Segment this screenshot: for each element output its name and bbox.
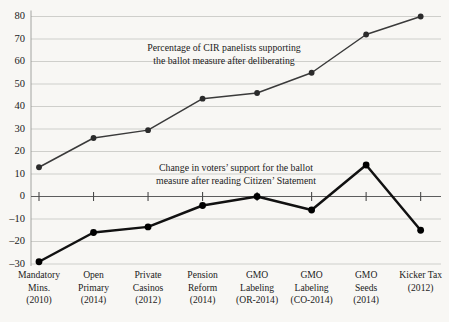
y-axis-tick-label: 30 xyxy=(15,123,26,134)
x-axis-category-label: GMO xyxy=(246,269,268,280)
voter-change-point xyxy=(199,202,206,209)
cir-panelists-point xyxy=(36,164,42,170)
voter-change-point xyxy=(36,258,43,265)
voter-change-point xyxy=(308,207,315,214)
y-axis-tick-label: 20 xyxy=(15,145,26,156)
y-axis-tick-label: 10 xyxy=(15,168,26,179)
x-axis-category-label: Labeling xyxy=(240,282,274,293)
voter-change-point xyxy=(145,223,152,230)
upper-series-annotation: the ballot measure after deliberating xyxy=(153,55,295,66)
x-axis-category-label: Kicker Tax xyxy=(399,269,442,280)
y-axis-tick-label: 0 xyxy=(20,190,25,201)
voter-change-point xyxy=(90,229,97,236)
x-axis-category-label: (2012) xyxy=(135,294,161,306)
cir-panelists-point xyxy=(91,135,97,141)
x-axis-category-label: Labeling xyxy=(295,282,329,293)
x-axis-category-label: Casinos xyxy=(133,282,164,293)
x-axis-category-label: (CO-2014) xyxy=(291,294,333,306)
cir-panelists-point xyxy=(200,96,206,102)
voter-change-point xyxy=(417,227,424,234)
chart-figure: 80706050403020100–10–20–30 Percentage of… xyxy=(0,0,449,322)
x-axis-category-label: (2014) xyxy=(81,294,107,306)
x-axis-category-label: (2014) xyxy=(190,294,216,306)
cir-panelists-point xyxy=(418,14,424,20)
voter-change-point xyxy=(254,193,261,200)
x-axis-category-label: Mins. xyxy=(28,282,50,293)
cir-panelists-point xyxy=(309,70,315,76)
lower-series-annotation: measure after reading Citizen’ Statement xyxy=(156,175,316,186)
x-axis-category-label: Private xyxy=(134,269,161,280)
y-axis-tick-label: 80 xyxy=(15,10,26,21)
voter-change-point xyxy=(363,162,370,169)
y-axis-tick-label: 70 xyxy=(15,33,26,44)
x-axis-category-label: GMO xyxy=(355,269,377,280)
cir-panelists-point xyxy=(254,90,260,96)
x-axis-category-label: Primary xyxy=(78,282,109,293)
x-axis-category-label: (2012) xyxy=(408,282,434,294)
y-axis-tick-label: –30 xyxy=(8,258,25,269)
x-axis-category-label: Reform xyxy=(188,282,218,293)
x-axis-category-label: (2010) xyxy=(26,294,52,306)
y-axis-tick-label: 50 xyxy=(15,78,26,89)
y-axis-tick-label: –10 xyxy=(8,213,25,224)
upper-series-annotation: Percentage of CIR panelists supporting xyxy=(147,42,301,53)
x-axis-category-label: GMO xyxy=(300,269,322,280)
cir-panelists-point xyxy=(145,127,151,133)
x-axis-category-label: Pension xyxy=(187,269,218,280)
line-chart: 80706050403020100–10–20–30 Percentage of… xyxy=(0,0,449,322)
y-axis-tick-label: 40 xyxy=(15,100,26,111)
lower-series-annotation: Change in voters’ support for the ballot xyxy=(159,162,313,173)
x-axis-category-label: (2014) xyxy=(353,294,379,306)
cir-panelists-point xyxy=(363,32,369,38)
x-axis-category-label: (OR-2014) xyxy=(236,294,278,306)
x-axis-category-label: Open xyxy=(83,269,104,280)
x-axis-category-label: Mandatory xyxy=(18,269,60,280)
y-axis-tick-label: 60 xyxy=(15,55,26,66)
x-axis-category-label: Seeds xyxy=(355,282,378,293)
y-axis-tick-label: –20 xyxy=(8,235,25,246)
